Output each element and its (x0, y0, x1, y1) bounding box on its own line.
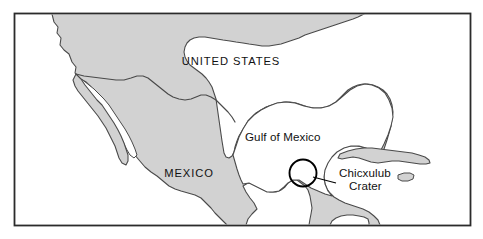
label-united-states: UNITED STATES (182, 55, 280, 67)
landmass-jamaica (398, 173, 414, 181)
label-chicxulub-crater-line1: Chicxulub (339, 166, 391, 179)
label-chicxulub-crater-line2: Crater (349, 179, 382, 192)
label-gulf-of-mexico: Gulf of Mexico (245, 130, 321, 143)
map-canvas: UNITED STATES MEXICO Gulf of Mexico Chic… (0, 0, 483, 239)
label-mexico: MEXICO (164, 167, 214, 179)
map-figure: UNITED STATES MEXICO Gulf of Mexico Chic… (0, 0, 483, 239)
